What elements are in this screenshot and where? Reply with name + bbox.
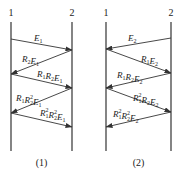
diagram-2: 12E2R1E2R1R2E2R21R2E2R21R22E2(2)	[104, 7, 174, 169]
wave-amplitude-label: R2E1	[21, 54, 39, 67]
diagram-caption: (1)	[36, 157, 48, 169]
diagram-1: 12E1R2E1R1R2E1R1R22E1R21R22E1(1)	[9, 7, 75, 169]
wave-amplitude-label: R1E2	[140, 54, 158, 67]
wave-arrow	[106, 38, 171, 49]
reflection-diagram: 12E1R2E1R1R2E1R1R22E1R21R22E1(1) 12E2R1E…	[0, 0, 183, 184]
diagram-caption: (2)	[133, 157, 145, 169]
surface-label: 1	[9, 7, 14, 18]
wave-amplitude-label: E2	[127, 33, 137, 44]
wave-amplitude-label: R21R22E2	[112, 108, 139, 124]
surface-label: 2	[169, 7, 174, 18]
wave-amplitude-label: R21R2E2	[132, 92, 159, 108]
surface-label: 2	[70, 7, 75, 18]
wave-amplitude-label: E1	[33, 33, 43, 44]
wave-amplitude-label: R1R2E1	[36, 69, 63, 84]
surface-label: 1	[104, 7, 109, 18]
wave-arrow	[106, 49, 171, 73]
